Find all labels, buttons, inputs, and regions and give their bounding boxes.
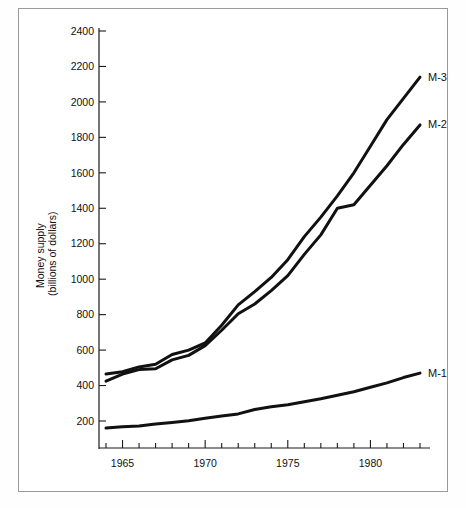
series-label-m-1: M-1: [428, 367, 447, 379]
line-chart-plot: 2004006008001000120014001600180020002200…: [0, 0, 466, 508]
y-tick-label: 1000: [71, 273, 95, 285]
x-tick-label: 1980: [359, 457, 383, 469]
y-axis-title-line1: Money supply: [34, 222, 46, 288]
series-line-m-2: [106, 125, 420, 381]
y-tick-label: 1800: [71, 131, 95, 143]
x-axis-tick-labels: 1965197019751980: [111, 457, 382, 469]
y-axis-tick-labels: 2004006008001000120014001600180020002200…: [71, 25, 95, 427]
y-tick-label: 2400: [71, 25, 95, 37]
series-label-m-2: M-2: [428, 118, 447, 130]
x-tick-label: 1975: [276, 457, 300, 469]
y-tick-label: 600: [76, 344, 94, 356]
y-tick-label: 1600: [71, 167, 95, 179]
y-tick-label: 2200: [71, 60, 95, 72]
x-tick-label: 1965: [111, 457, 135, 469]
series-end-labels: M-1M-2M-3: [428, 71, 447, 379]
y-axis-title: Money supply (billions of dollars): [34, 211, 58, 296]
x-tick-label: 1970: [193, 457, 217, 469]
series-line-m-1: [106, 373, 420, 428]
series-line-m-3: [106, 77, 420, 374]
series-label-m-3: M-3: [428, 71, 447, 83]
y-axis-ticks: [99, 31, 106, 421]
y-tick-label: 800: [76, 308, 94, 320]
data-series-group: [106, 77, 420, 428]
y-tick-label: 200: [76, 415, 94, 427]
y-tick-label: 1200: [71, 237, 95, 249]
y-axis-title-line2: (billions of dollars): [46, 211, 58, 296]
chart-figure: 2004006008001000120014001600180020002200…: [0, 0, 466, 508]
y-tick-label: 2000: [71, 96, 95, 108]
y-tick-label: 1400: [71, 202, 95, 214]
x-axis-ticks: [106, 440, 420, 448]
y-tick-label: 400: [76, 379, 94, 391]
